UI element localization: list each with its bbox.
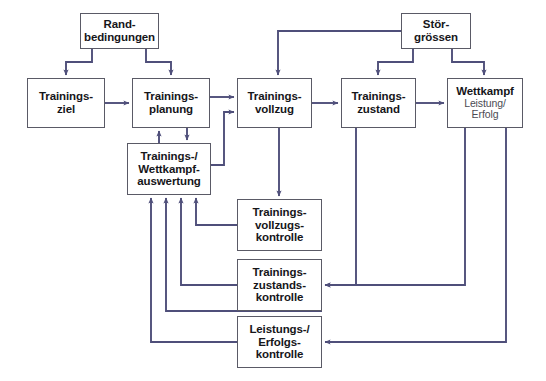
node-label: Trainings- bbox=[39, 90, 93, 103]
node-wettkampf[interactable]: Wettkampf Leistung/ Erfolg bbox=[447, 78, 523, 128]
node-label: Trainings- bbox=[352, 90, 406, 103]
node-stoergroessen[interactable]: Stör- grössen bbox=[401, 13, 471, 49]
node-label: Trainings- bbox=[253, 266, 307, 279]
node-label: Wettkampf bbox=[456, 85, 514, 98]
node-trainingsziel[interactable]: Trainings- ziel bbox=[27, 78, 105, 128]
node-label: planung bbox=[149, 103, 193, 116]
edge-wettkampf-to-zustandskontrolle bbox=[325, 128, 465, 285]
node-trainingsplanung[interactable]: Trainings- planung bbox=[132, 78, 210, 128]
node-trainingsvollzugskontrolle[interactable]: Trainings- vollzugs- kontrolle bbox=[237, 199, 322, 251]
node-label: vollzug bbox=[255, 103, 294, 116]
node-trainingszustand[interactable]: Trainings- zustand bbox=[341, 78, 416, 128]
node-label: Wettkampf- bbox=[138, 163, 199, 176]
node-label: kontrolle bbox=[256, 291, 304, 304]
node-label: Stör- bbox=[423, 18, 449, 31]
node-trainings-wettkampf-auswertung[interactable]: Trainings-/ Wettkampf- auswertung bbox=[127, 143, 211, 195]
edge-stoer-to-vollzug bbox=[278, 31, 401, 75]
edge-erfolgskontrolle-to-auswertung bbox=[151, 198, 237, 342]
node-label: Erfolgs- bbox=[258, 336, 301, 349]
node-randbedingungen[interactable]: Rand- bedingungen bbox=[80, 13, 159, 49]
edge-auswertung-to-vollzug bbox=[211, 112, 234, 165]
edge-stoer-to-wettkampf bbox=[452, 49, 484, 75]
flowchart-diagram: Rand- bedingungen Stör- grössen Training… bbox=[0, 0, 546, 381]
node-label: Leistungs-/ bbox=[249, 323, 309, 336]
node-label: vollzugs- bbox=[255, 219, 304, 232]
node-label: Trainings- bbox=[253, 206, 307, 219]
node-label: Trainings- bbox=[248, 90, 302, 103]
node-label: grössen bbox=[414, 31, 458, 44]
edge-vollzugskontrolle-to-auswertung bbox=[196, 198, 237, 225]
node-label: kontrolle bbox=[256, 348, 304, 361]
node-label: Rand- bbox=[103, 18, 135, 31]
node-label: ziel bbox=[57, 103, 75, 116]
edge-wettkampf-to-erfolgskontrolle bbox=[325, 128, 506, 342]
node-label: zustand bbox=[357, 103, 400, 116]
edge-zustandskontrolle-to-auswertung bbox=[181, 198, 237, 285]
node-label: kontrolle bbox=[256, 231, 304, 244]
edge-rand-to-planung bbox=[146, 49, 171, 75]
node-label: Trainings- bbox=[144, 90, 198, 103]
node-label: Trainings-/ bbox=[140, 150, 197, 163]
node-label: bedingungen bbox=[84, 31, 155, 44]
node-leistungs-erfolgskontrolle[interactable]: Leistungs-/ Erfolgs- kontrolle bbox=[237, 316, 322, 368]
edge-stoer-to-zustand bbox=[378, 49, 413, 75]
node-sublabel: Erfolg bbox=[472, 109, 499, 121]
node-label: auswertung bbox=[137, 175, 201, 188]
node-label: zustands- bbox=[253, 279, 306, 292]
node-trainingsvollzug[interactable]: Trainings- vollzug bbox=[237, 78, 312, 128]
edge-rand-to-ziel bbox=[66, 49, 92, 75]
node-trainingszustandskontrolle[interactable]: Trainings- zustands- kontrolle bbox=[237, 259, 322, 311]
edge-zustand-to-zustandskontrolle bbox=[325, 128, 356, 285]
